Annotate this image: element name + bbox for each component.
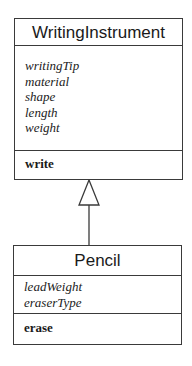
attributes-compartment: writingTip material shape length weight bbox=[15, 46, 182, 151]
attribute: material bbox=[25, 74, 182, 90]
attribute: leadWeight bbox=[24, 279, 181, 295]
class-writing-instrument[interactable]: WritingInstrument writingTip material sh… bbox=[14, 18, 183, 180]
attribute: writingTip bbox=[25, 58, 182, 74]
operations-compartment: erase bbox=[14, 314, 181, 336]
attribute: weight bbox=[25, 120, 182, 136]
hollow-triangle-arrowhead-icon bbox=[79, 180, 99, 205]
operation: erase bbox=[24, 320, 181, 336]
operations-compartment: write bbox=[15, 151, 182, 172]
attribute: shape bbox=[25, 89, 182, 105]
operation: write bbox=[25, 156, 182, 172]
class-pencil[interactable]: Pencil leadWeight eraserType erase bbox=[13, 245, 182, 345]
class-name: WritingInstrument bbox=[15, 19, 182, 46]
attributes-compartment: leadWeight eraserType bbox=[14, 276, 181, 314]
attribute: length bbox=[25, 105, 182, 121]
class-name: Pencil bbox=[14, 246, 181, 276]
attribute: eraserType bbox=[24, 295, 181, 311]
